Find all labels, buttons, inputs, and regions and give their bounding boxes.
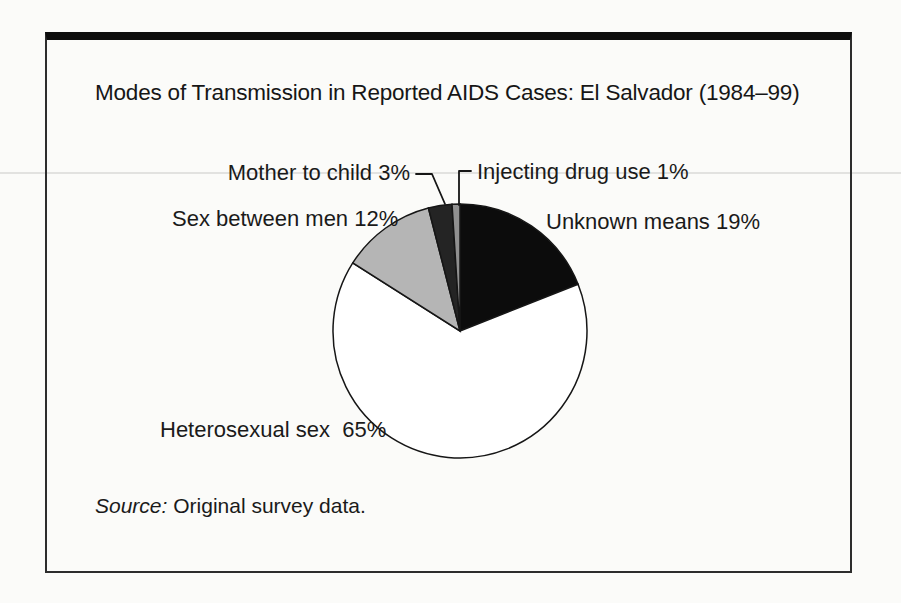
source-note: Source: Original survey data. bbox=[95, 494, 366, 518]
label-heterosexual-sex: Heterosexual sex 65% bbox=[160, 418, 386, 442]
leader-line-injecting-drug-use bbox=[459, 171, 471, 205]
label-injecting-drug-use: Injecting drug use 1% bbox=[477, 160, 689, 184]
figure-title: Modes of Transmission in Reported AIDS C… bbox=[95, 80, 799, 106]
label-mother-to-child: Mother to child 3% bbox=[228, 161, 410, 185]
leader-lines bbox=[416, 171, 471, 205]
label-sex-between-men: Sex between men 12% bbox=[172, 207, 398, 231]
leader-line-mother-to-child bbox=[416, 174, 445, 204]
label-unknown-means: Unknown means 19% bbox=[546, 210, 760, 234]
source-prefix: Source: bbox=[95, 494, 167, 517]
source-text: Original survey data. bbox=[173, 494, 366, 517]
scanned-page: Modes of Transmission in Reported AIDS C… bbox=[0, 0, 901, 603]
